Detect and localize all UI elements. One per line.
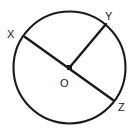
center-point-marker xyxy=(67,65,72,70)
circle-diagram-figure: X Y Z O xyxy=(0,0,139,138)
point-label-z: Z xyxy=(118,101,125,113)
center-label-o: O xyxy=(60,77,69,89)
point-label-y: Y xyxy=(105,10,113,22)
circle-diagram-canvas: X Y Z O xyxy=(0,0,139,138)
segment-radius-o-y xyxy=(70,24,107,68)
point-label-x: X xyxy=(7,28,15,40)
